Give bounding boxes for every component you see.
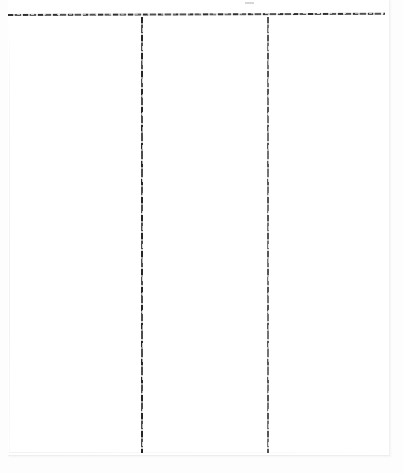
column-divider-rule-1 [141, 17, 143, 453]
middle-column-field [144, 18, 266, 451]
rule-ink-gaps [268, 17, 269, 453]
right-column-field [270, 18, 385, 451]
paper-edge-bottom [9, 452, 386, 453]
left-column-field [10, 18, 140, 451]
stray-speck-artifact [245, 2, 254, 4]
scanned-page-canvas: Blank ruled ledger sheet [0, 0, 403, 473]
rule-ink-gaps [142, 17, 143, 453]
document-title: Blank ruled ledger sheet [0, 0, 1, 1]
column-divider-rule-2 [267, 17, 269, 453]
